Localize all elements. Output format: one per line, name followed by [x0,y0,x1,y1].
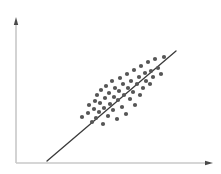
data-point [138,93,142,97]
data-point [92,107,96,111]
data-point [139,64,143,68]
data-point [102,106,106,110]
data-point [108,102,112,106]
data-point [135,82,139,86]
data-point [132,68,136,72]
data-point [128,97,132,101]
data-point [122,93,126,97]
data-point [159,72,163,76]
scatter-plot-figure [0,0,221,174]
data-point [95,93,99,97]
data-point [97,110,101,114]
data-point [162,55,166,59]
data-point [94,116,98,120]
data-point [120,105,124,109]
data-point [118,76,122,80]
data-point [153,57,157,61]
data-point [115,117,119,121]
data-point [106,114,110,118]
data-point [113,86,117,90]
data-point [117,89,121,93]
data-point [98,101,102,105]
data-point [107,91,111,95]
data-point [137,75,141,79]
data-point [101,122,105,126]
data-point [121,82,125,86]
data-point [112,95,116,99]
data-point [146,60,150,64]
data-point [116,98,120,102]
data-point [80,115,84,119]
data-point [149,69,153,73]
data-point [143,71,147,75]
data-point [133,103,137,107]
data-point [110,79,114,83]
data-point [104,84,108,88]
data-point [125,72,129,76]
data-point [124,112,128,116]
plot-canvas [0,0,221,174]
data-point [87,103,91,107]
data-point [151,75,155,79]
data-point [141,86,145,90]
data-point [129,79,133,83]
data-point [90,120,94,124]
data-point [144,79,148,83]
data-point [111,108,115,112]
data-point [156,66,160,70]
data-point [86,111,90,115]
data-point [126,86,130,90]
data-point [131,90,135,94]
data-point [99,88,103,92]
data-point [148,82,152,86]
data-point [93,99,97,103]
plot-background [0,0,221,174]
data-point [103,96,107,100]
